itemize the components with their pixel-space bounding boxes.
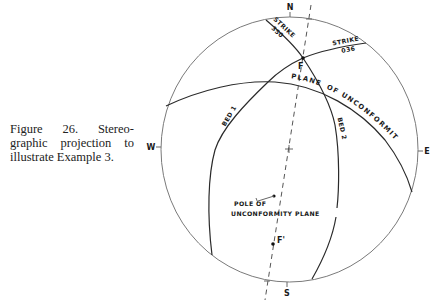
point-f-label: F <box>298 62 303 71</box>
pole-label-line-1: POLE OF <box>234 200 266 207</box>
strike-036-value: 036 <box>341 44 356 54</box>
strike-350-label: STRIKE 350 <box>267 15 297 45</box>
unconformity-great-circle <box>166 82 412 192</box>
point-f-prime-label: F' <box>277 236 285 245</box>
west-label: W <box>147 143 156 152</box>
south-label: S <box>284 289 290 298</box>
bed-2-great-circle-lower <box>312 217 336 279</box>
pole-label-line-2: UNCONFORMITY PLANE <box>231 210 320 217</box>
east-label: E <box>424 147 429 156</box>
point-f-prime-dot <box>271 242 275 246</box>
point-f-dot <box>301 56 305 60</box>
unconformity-label-part-1: PLANE <box>291 72 323 88</box>
bed-2-great-circle <box>266 20 339 208</box>
north-label: N <box>287 3 294 12</box>
fold-axis-dashed-line <box>265 5 311 300</box>
stereographic-projection: N W E S F F' POLE OF UNCONFORMITY PLANE … <box>0 0 436 303</box>
bed-2-label: BED 2 <box>336 117 348 141</box>
unconformity-label: PLANE <box>291 72 323 88</box>
